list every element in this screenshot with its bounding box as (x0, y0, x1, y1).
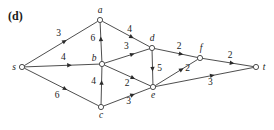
node-label-d: d (150, 33, 155, 43)
edge-capacity-b-to-a: 6 (90, 33, 95, 43)
edge-capacity-b-to-d: 3 (124, 41, 129, 51)
node-f[interactable] (197, 55, 202, 60)
edge-capacity-e-to-f: 2 (185, 63, 190, 73)
edge-capacity-c-to-b: 4 (91, 76, 96, 86)
node-s[interactable] (19, 64, 24, 69)
edge-capacity-d-to-e: 5 (157, 63, 162, 73)
edge-capacity-f-to-t: 2 (228, 50, 233, 60)
edge-capacity-d-to-f: 2 (177, 41, 182, 51)
edge-capacity-b-to-e: 2 (125, 78, 130, 88)
node-c[interactable] (98, 104, 103, 109)
arrowheads-layer (62, 34, 235, 98)
arrowhead-f-to-t (229, 61, 234, 65)
arrowhead-s-to-b (67, 63, 72, 67)
node-d[interactable] (149, 45, 154, 50)
arrowhead-b-to-d (130, 53, 135, 57)
edge-s-to-c (24, 68, 98, 106)
arrowhead-b-to-a (99, 37, 103, 42)
arrowhead-c-to-b (99, 80, 103, 85)
arrowhead-d-to-e (150, 67, 154, 72)
node-label-e: e (151, 90, 155, 100)
edge-capacity-a-to-d: 4 (127, 24, 132, 34)
edge-c-to-b (101, 67, 102, 105)
node-label-t: t (263, 62, 266, 72)
flow-network-graph: 34664432352232 sabcdeft (0, 0, 274, 130)
edge-capacity-e-to-t: 3 (208, 77, 213, 87)
node-e[interactable] (150, 84, 155, 89)
edge-capacity-s-to-a: 3 (56, 28, 61, 38)
edge-b-to-a (100, 23, 102, 62)
figure-panel: (d) 34664432352232 sabcdeft (0, 0, 274, 130)
node-label-b: b (92, 53, 97, 63)
node-t[interactable] (253, 64, 258, 69)
node-label-c: c (99, 110, 104, 120)
node-label-f: f (200, 43, 204, 53)
node-a[interactable] (97, 17, 102, 22)
node-b[interactable] (99, 61, 104, 66)
edge-capacity-c-to-e: 3 (126, 96, 131, 106)
node-label-a: a (98, 5, 103, 15)
node-label-s: s (12, 62, 16, 72)
edge-capacity-s-to-b: 4 (61, 52, 66, 62)
edge-e-to-t (156, 67, 254, 86)
edge-s-to-b (25, 64, 100, 67)
edge-capacity-s-to-c: 6 (55, 90, 60, 100)
arrowhead-d-to-f (178, 51, 183, 55)
